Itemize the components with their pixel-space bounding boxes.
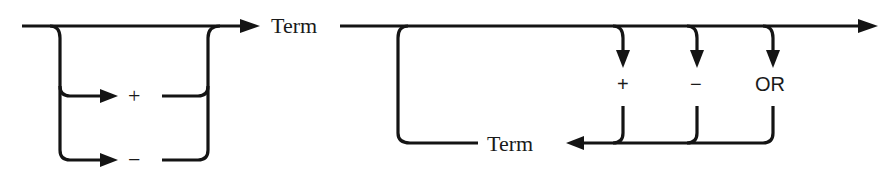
return-plus-path [613, 106, 623, 143]
drop-plus-path [613, 26, 623, 52]
operator-or-label: OR [755, 73, 785, 95]
arrow-left-icon [566, 136, 584, 150]
sign-choice-block: + − [22, 19, 260, 172]
arrow-right-icon [100, 89, 118, 103]
arrow-down-icon [766, 50, 780, 68]
branch-plus-return [162, 86, 208, 96]
drop-or-path [763, 26, 773, 52]
sign-plus-label: + [128, 83, 140, 108]
first-term-label: Term [271, 13, 317, 38]
operator-minus-label: − [690, 73, 702, 95]
loop-back-path [398, 26, 478, 143]
arrow-right-icon [240, 19, 260, 33]
repeat-loop-block: + − OR Term [340, 19, 878, 156]
return-or-path [580, 106, 773, 143]
branch-minus-path [50, 26, 104, 160]
arrow-right-icon [858, 19, 878, 33]
sign-minus-label: − [128, 147, 140, 172]
branch-minus-return [162, 26, 220, 160]
drop-minus-path [687, 26, 697, 52]
arrow-down-icon [616, 50, 630, 68]
return-term-label: Term [487, 131, 533, 156]
arrow-right-icon [100, 153, 118, 167]
branch-plus-path [60, 86, 104, 96]
return-minus-path [687, 106, 697, 143]
arrow-down-icon [690, 50, 704, 68]
operator-plus-label: + [617, 73, 629, 95]
syntax-diagram: + − Term + − OR Term [0, 0, 896, 172]
